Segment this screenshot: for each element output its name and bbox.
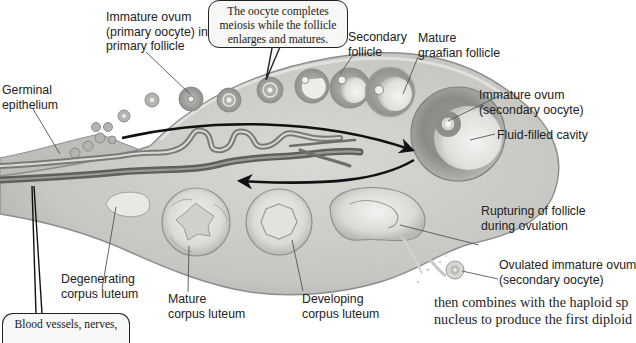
label-secondary-follicle: Secondary follicle: [348, 30, 407, 59]
label-immature-ovum-primary: Immature ovum (primary oocyte) in primar…: [106, 10, 208, 54]
label-rupturing-follicle: Rupturing of follicle during ovulation: [481, 204, 586, 233]
label-mature-graafian-follicle: Mature graafian follicle: [418, 31, 500, 60]
label-mature-corpus-luteum: Mature corpus luteum: [168, 292, 245, 321]
label-immature-ovum-secondary: Immature ovum (secondary oocyte): [479, 88, 584, 117]
body-text: then combines with the haploid sp nucleu…: [434, 294, 632, 328]
label-degenerating-corpus-luteum: Degenerating corpus luteum: [61, 272, 138, 301]
callout-blood-vessels: Blood vessels, nerves,: [2, 313, 130, 343]
label-ovulated-ovum: Ovulated immature ovum (secondary oocyte…: [499, 258, 636, 287]
ovulated-oocyte: [446, 261, 464, 279]
label-germinal-epithelium: Germinal epithelium: [2, 83, 58, 112]
callout-meiosis: The oocyte completes meiosis while the f…: [208, 0, 348, 48]
label-developing-corpus-luteum: Developing corpus luteum: [302, 292, 379, 321]
developing-corpus-luteum: [246, 189, 312, 255]
label-fluid-filled-cavity: Fluid-filled cavity: [497, 128, 588, 143]
mature-corpus-luteum: [162, 188, 230, 256]
